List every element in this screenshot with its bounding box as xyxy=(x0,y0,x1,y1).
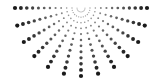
halftone-dot xyxy=(104,49,107,52)
halftone-dot xyxy=(110,15,112,17)
halftone-dot xyxy=(79,11,80,12)
halftone-dot xyxy=(106,33,109,36)
halftone-dot xyxy=(121,18,124,21)
halftone-dot xyxy=(19,6,23,10)
halftone-dot xyxy=(85,8,86,9)
halftone-dot xyxy=(114,42,117,45)
halftone-dot xyxy=(126,34,130,38)
halftone-dot xyxy=(88,12,89,13)
halftone-dot xyxy=(97,17,99,19)
halftone-dot xyxy=(94,21,96,23)
halftone-dot xyxy=(78,10,79,11)
halftone-dot xyxy=(80,27,82,29)
halftone-dot xyxy=(32,34,36,38)
halftone-dot xyxy=(73,20,75,22)
halftone-dot xyxy=(118,46,122,50)
halftone-dot xyxy=(53,23,55,25)
halftone-dot xyxy=(66,21,68,23)
halftone-dot xyxy=(87,14,88,15)
halftone-dot xyxy=(43,7,46,10)
halftone-dot xyxy=(133,6,137,10)
halftone-dot xyxy=(91,49,94,52)
halftone-dot xyxy=(31,6,34,9)
halftone-dot xyxy=(58,29,60,31)
halftone-dot xyxy=(122,6,125,9)
halftone-dot xyxy=(41,46,45,50)
halftone-dot xyxy=(83,11,84,12)
halftone-dot xyxy=(25,6,29,10)
halftone-dot xyxy=(92,54,95,57)
halftone-dot xyxy=(27,37,31,41)
halftone-dot xyxy=(143,24,147,28)
halftone-dot xyxy=(94,11,96,13)
halftone-dot xyxy=(79,74,83,78)
halftone-dot xyxy=(79,50,82,53)
halftone-dot xyxy=(50,15,52,17)
halftone-dot xyxy=(89,43,92,46)
halftone-dot xyxy=(45,42,48,45)
halftone-dot xyxy=(121,31,124,34)
halftone-dot xyxy=(21,22,25,26)
halftone-dot xyxy=(37,31,40,34)
halftone-dot xyxy=(72,38,74,40)
halftone-dot xyxy=(116,7,119,10)
halftone-dot xyxy=(76,15,77,16)
halftone-dot xyxy=(90,25,92,27)
halftone-dot xyxy=(80,33,82,35)
halftone-dot xyxy=(78,16,79,17)
halftone-dot xyxy=(85,15,86,16)
halftone-dot xyxy=(93,15,95,17)
halftone-dot xyxy=(126,54,130,58)
halftone-dot xyxy=(112,26,115,29)
halftone-dot xyxy=(62,25,64,27)
halftone-dot xyxy=(128,6,131,9)
halftone-dot xyxy=(79,62,83,66)
halftone-dot xyxy=(98,25,100,27)
halftone-dot xyxy=(49,37,52,40)
halftone-dot xyxy=(116,28,119,31)
halftone-dot xyxy=(96,72,100,76)
halftone-dot xyxy=(46,65,50,69)
halftone-dot xyxy=(101,44,104,47)
halftone-dot xyxy=(70,25,72,27)
halftone-dot xyxy=(104,14,106,16)
halftone-dot xyxy=(77,10,78,11)
halftone-dot xyxy=(75,27,77,29)
halftone-dot xyxy=(139,6,143,10)
halftone-dot xyxy=(136,40,140,44)
halftone-dot xyxy=(66,7,68,9)
halftone-dot xyxy=(85,27,87,29)
halftone-dot xyxy=(65,60,69,64)
halftone-dot xyxy=(126,19,129,22)
halftone-dot xyxy=(68,15,70,17)
halftone-dot xyxy=(64,34,66,36)
halftone-dot xyxy=(89,10,90,11)
halftone-dot xyxy=(58,20,60,22)
halftone-dot xyxy=(95,34,97,36)
halftone-dot xyxy=(74,14,75,15)
halftone-dot xyxy=(15,24,19,28)
halftone-dot xyxy=(67,30,69,32)
dot-sunburst-graphic xyxy=(0,0,156,81)
halftone-dot xyxy=(49,7,51,9)
halftone-dot xyxy=(61,39,64,42)
halftone-dot xyxy=(83,10,84,11)
halftone-dot xyxy=(112,65,116,69)
halftone-dot xyxy=(52,55,56,59)
halftone-dot xyxy=(68,49,71,52)
halftone-dot xyxy=(82,11,83,12)
halftone-dot xyxy=(105,7,107,9)
halftone-dot xyxy=(106,55,110,59)
halftone-dot xyxy=(37,6,40,9)
halftone-dot xyxy=(43,28,46,31)
halftone-dot xyxy=(79,56,82,59)
halftone-dot xyxy=(67,54,70,57)
halftone-dot xyxy=(131,37,135,41)
halftone-dot xyxy=(100,7,102,9)
halftone-dot xyxy=(84,9,85,10)
halftone-dot xyxy=(145,6,149,10)
halftone-dot xyxy=(115,16,118,19)
halftone-dot xyxy=(81,12,82,13)
halftone-dot xyxy=(122,50,126,54)
halftone-dot xyxy=(32,54,36,58)
